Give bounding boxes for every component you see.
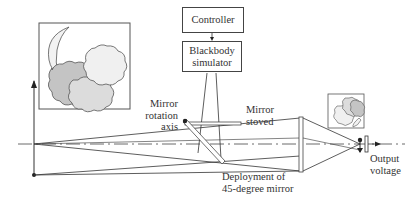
rotation-axis-pivot [183,119,187,123]
inverted-moon-clouds-image-icon [328,94,365,128]
object-arrowhead-icon [31,80,37,88]
controller-box: Controller [182,7,244,33]
mirror-rotation-axis-label: Mirror rotation axis [140,98,178,133]
mirror-stoved-label: Mirror stoved [246,104,274,127]
lens [299,117,303,172]
detector [365,136,368,152]
controller-label: Controller [191,14,234,25]
blackbody-label-line1: Blackbody [183,45,241,57]
blackbody-label-line2: simulator [183,57,241,69]
deployment-label: Deployment of 45-degree mirror [222,171,293,194]
output-arrow-icon [375,142,381,147]
blackbody-simulator-box: Blackbody simulator [182,41,242,72]
stowed-mirror [185,122,241,125]
output-voltage-label: Output voltage [370,153,401,176]
moon-clouds-scene-icon [39,23,130,112]
